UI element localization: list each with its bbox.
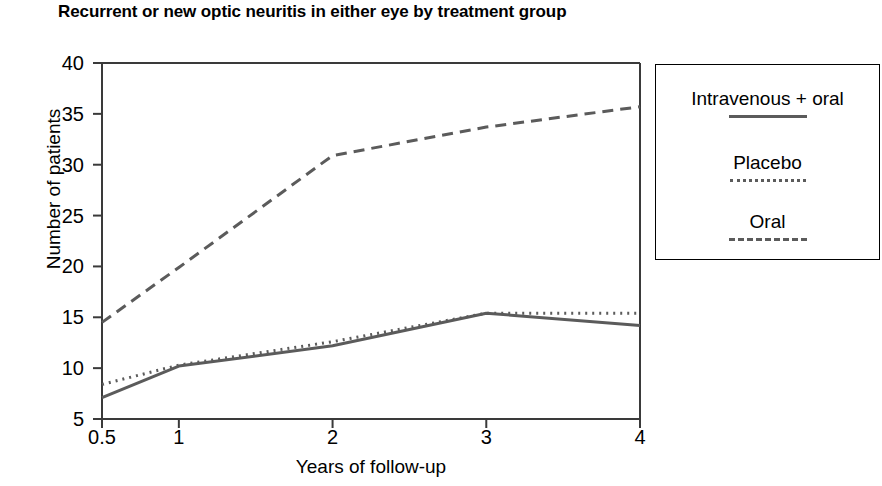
legend-label: Placebo bbox=[656, 151, 879, 175]
y-tick-label-text: 15 bbox=[38, 307, 84, 327]
data-series-layer bbox=[102, 107, 640, 398]
series-line-intravenous-oral bbox=[102, 313, 640, 397]
y-tick-label-text: 20 bbox=[38, 256, 84, 276]
y-tick-label-text: 10 bbox=[38, 358, 84, 378]
legend-label: Intravenous + oral bbox=[656, 87, 879, 111]
x-tick-label: 4 bbox=[610, 426, 670, 448]
legend-swatch-dashed-line-icon bbox=[729, 238, 807, 245]
y-axis-title: Number of patients bbox=[43, 39, 65, 339]
y-tick-label-text: 35 bbox=[38, 104, 84, 124]
y-tick-label: 35 bbox=[38, 104, 84, 124]
x-axis-title: Years of follow-up bbox=[102, 456, 640, 478]
y-tick-label: 10 bbox=[38, 358, 84, 378]
legend-swatch-solid-line-icon bbox=[729, 115, 807, 122]
series-line-oral bbox=[102, 107, 640, 323]
y-axis-ticks bbox=[93, 63, 102, 419]
x-tick-label: 1 bbox=[149, 426, 209, 448]
legend-entry-oral: Oral bbox=[656, 210, 879, 245]
x-tick-label: 2 bbox=[303, 426, 363, 448]
x-tick-label: 3 bbox=[456, 426, 516, 448]
figure: Recurrent or new optic neuritis in eithe… bbox=[0, 0, 882, 486]
y-tick-label-text: 30 bbox=[38, 155, 84, 175]
legend-entry-placebo: Placebo bbox=[656, 151, 879, 186]
y-tick-label: 20 bbox=[38, 256, 84, 276]
y-tick-label-text: 40 bbox=[38, 53, 84, 73]
y-tick-label: 30 bbox=[38, 155, 84, 175]
legend-entry-intravenous-oral: Intravenous + oral bbox=[656, 87, 879, 122]
series-line-placebo bbox=[102, 313, 640, 384]
legend-swatch-dotted-line-icon bbox=[730, 179, 806, 186]
legend: Intravenous + oral Placebo Oral bbox=[655, 64, 880, 260]
y-tick-label: 25 bbox=[38, 206, 84, 226]
x-tick-label: 0.5 bbox=[72, 426, 132, 448]
y-tick-label: 40 bbox=[38, 53, 84, 73]
y-tick-label-text: 25 bbox=[38, 206, 84, 226]
legend-label: Oral bbox=[656, 210, 879, 234]
y-tick-label: 15 bbox=[38, 307, 84, 327]
